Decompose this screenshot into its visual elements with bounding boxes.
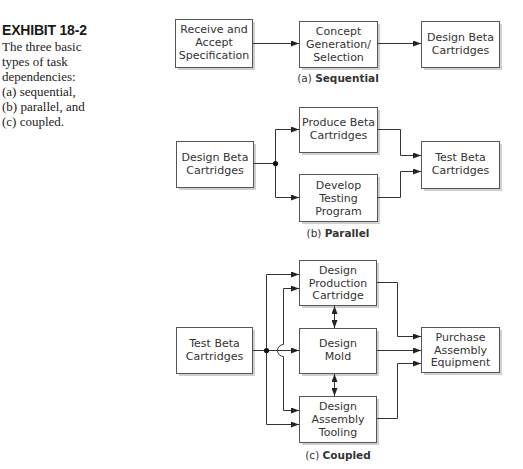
box-text: Mold (325, 350, 351, 363)
box-text: Cartridges (186, 164, 244, 177)
arrow-connector (267, 351, 300, 425)
task-box-design-production-cartridge: Design Production Cartridge (300, 261, 380, 309)
box-text: Produce Beta (302, 116, 375, 129)
arrow-connector (267, 275, 300, 351)
section-label-parallel: (b) Parallel (307, 227, 370, 239)
parallel-diagram: Design Beta Cartridges Produce Beta Cart… (177, 108, 503, 240)
arrow-connector (377, 283, 421, 337)
task-box-receive-accept-spec: Receive and Accept Specification (176, 20, 256, 71)
task-box-design-beta: Design Beta Cartridges (177, 142, 257, 191)
box-text: Design (319, 264, 357, 277)
arrow-connector (276, 130, 300, 164)
box-text: Design Beta (182, 151, 249, 164)
box-text: Program (315, 205, 361, 218)
box-text: Purchase (436, 331, 486, 344)
box-text: Selection (313, 51, 364, 64)
arrow-connector (276, 164, 300, 198)
box-text: Design (319, 400, 357, 413)
box-text: Accept (195, 36, 233, 49)
sequential-diagram: Receive and Accept Specification Concept… (176, 20, 503, 85)
box-text: Develop (316, 179, 361, 192)
task-box-concept-generation: Concept Generation/ Selection (300, 22, 381, 71)
section-label-coupled: (c) Coupled (305, 449, 370, 461)
arrow-connector (378, 130, 421, 156)
box-text: Cartridges (432, 164, 490, 177)
section-label-sequential: (a) Sequential (297, 72, 379, 84)
task-box-test-beta: Test Beta Cartridges (177, 328, 256, 377)
box-text: Specification (179, 49, 250, 62)
box-text: Test Beta (434, 151, 486, 164)
box-text: Receive and (180, 23, 247, 36)
box-text: Tooling (318, 426, 357, 439)
box-text: Production (309, 277, 368, 290)
task-box-develop-testing: Develop Testing Program (300, 175, 381, 225)
coupled-diagram: Test Beta Cartridges Design Production C… (177, 261, 503, 462)
box-text: Concept (316, 25, 362, 38)
task-dependency-diagram: Receive and Accept Specification Concept… (0, 0, 523, 469)
task-box-design-beta: Design Beta Cartridges (422, 22, 503, 71)
box-text: Test Beta (188, 337, 240, 350)
box-text: Cartridges (310, 129, 368, 142)
box-text: Cartridge (312, 289, 364, 302)
box-text: Design (319, 337, 357, 350)
box-text: Equipment (431, 356, 491, 369)
task-box-design-assembly-tooling: Design Assembly Tooling (300, 397, 380, 446)
task-box-design-mold: Design Mold (300, 329, 380, 377)
task-box-purchase-assembly-equipment: Purchase Assembly Equipment (422, 328, 503, 376)
box-text: Testing (318, 192, 358, 205)
box-text: Cartridges (432, 44, 490, 57)
task-box-produce-beta: Produce Beta Cartridges (300, 108, 381, 156)
junction-dot (273, 161, 278, 166)
box-text: Design Beta (427, 31, 494, 44)
connector-line-with-hop (278, 289, 300, 411)
box-text: Assembly (434, 344, 488, 357)
box-text: Cartridges (186, 350, 244, 363)
box-text: Assembly (311, 413, 365, 426)
arrow-connector (377, 364, 421, 419)
junction-dot (264, 348, 269, 353)
task-box-test-beta: Test Beta Cartridges (422, 142, 503, 192)
box-text: Generation/ (306, 38, 371, 51)
arrow-connector (378, 172, 421, 198)
